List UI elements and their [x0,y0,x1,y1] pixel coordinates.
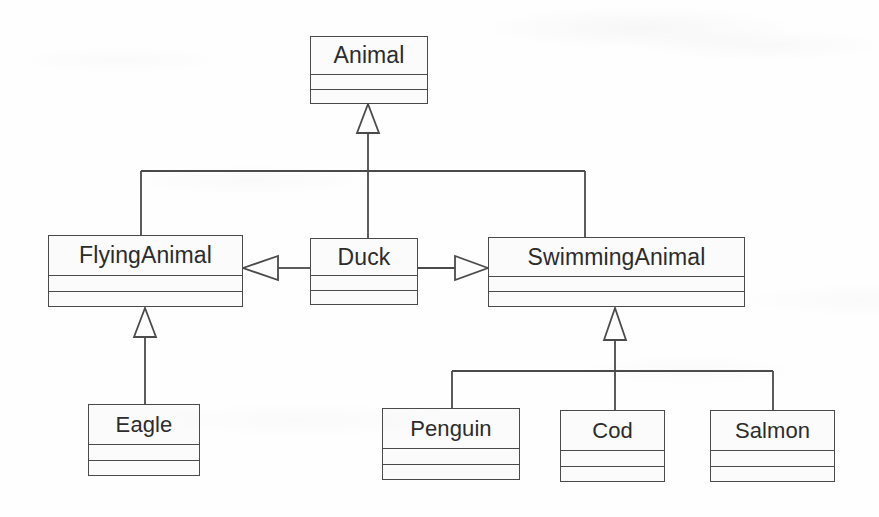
class-name-swimming-animal: SwimmingAnimal [489,238,744,277]
class-attributes-cod [561,451,664,467]
class-operations-penguin [383,465,519,480]
class-name-duck: Duck [311,239,417,276]
class-attributes-duck [311,276,417,291]
class-name-cod: Cod [561,411,664,451]
class-attributes-salmon [711,451,834,467]
realization-arrowhead-swimming-animal [455,256,488,280]
class-operations-swimming-animal [489,292,744,306]
class-attributes-flying-animal [49,276,242,292]
class-operations-salmon [711,467,834,482]
generalization-swimming-animal-tree [452,308,773,410]
class-attributes-eagle [89,445,199,461]
realization-arrowhead-flying-animal [243,256,278,280]
class-operations-cod [561,467,664,482]
generalization-arrowhead-swimming-animal [604,308,626,340]
class-box-duck[interactable]: Duck [310,238,418,305]
class-operations-duck [311,291,417,305]
class-box-swimming-animal[interactable]: SwimmingAnimal [488,237,745,307]
class-box-flying-animal[interactable]: FlyingAnimal [48,235,243,307]
class-box-animal[interactable]: Animal [310,36,428,104]
realization-duck-flying-animal [243,256,310,280]
class-name-penguin: Penguin [383,409,519,449]
class-operations-eagle [89,461,199,476]
realization-duck-swimming-animal [418,256,488,280]
generalization-arrowhead-animal [357,104,379,133]
class-attributes-penguin [383,449,519,465]
generalization-arrowhead-flying-animal [134,308,156,337]
class-attributes-swimming-animal [489,277,744,292]
class-name-flying-animal: FlyingAnimal [49,236,242,276]
class-operations-animal [311,90,427,104]
class-name-animal: Animal [311,37,427,75]
class-box-penguin[interactable]: Penguin [382,408,520,480]
class-box-cod[interactable]: Cod [560,410,665,482]
uml-class-diagram: Animal FlyingAnimal Duck SwimmingAnimal … [0,0,879,517]
class-operations-flying-animal [49,292,242,307]
generalization-animal-tree [141,104,585,238]
class-name-salmon: Salmon [711,411,834,451]
class-box-salmon[interactable]: Salmon [710,410,835,482]
class-box-eagle[interactable]: Eagle [88,404,200,476]
generalization-flying-animal-eagle [134,308,156,404]
class-name-eagle: Eagle [89,405,199,445]
class-attributes-animal [311,75,427,90]
